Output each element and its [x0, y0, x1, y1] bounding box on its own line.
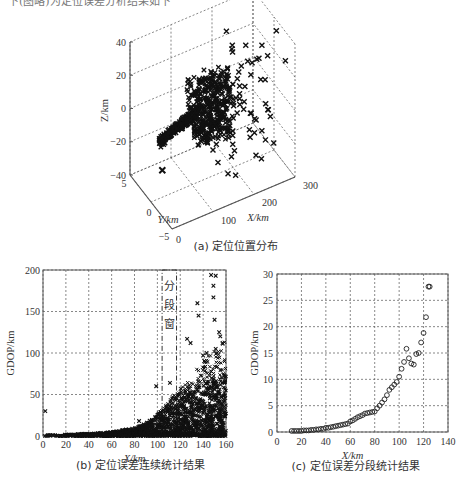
svg-text:5: 5: [268, 400, 273, 411]
svg-text:40: 40: [321, 436, 331, 447]
svg-text:80: 80: [370, 436, 380, 447]
svg-text:80: 80: [130, 439, 140, 450]
caption-a: (a) 定位位置分布: [194, 239, 279, 253]
svg-text:0: 0: [147, 207, 152, 218]
svg-text:−5: −5: [159, 231, 170, 242]
svg-text:0: 0: [176, 234, 181, 245]
svg-text:120: 120: [173, 439, 188, 450]
svg-text:30: 30: [263, 269, 273, 280]
panel-c-segmented-scatter: 020406080100120140051015202530X/kmGDOP/k…: [249, 269, 456, 474]
svg-text:100: 100: [25, 348, 40, 359]
svg-text:60: 60: [345, 436, 355, 447]
svg-text:Z/km: Z/km: [99, 99, 110, 122]
svg-text:200: 200: [262, 197, 277, 208]
svg-text:300: 300: [303, 180, 318, 191]
gdop-continuous-series: [43, 273, 227, 437]
svg-text:20: 20: [296, 436, 306, 447]
svg-text:25: 25: [263, 295, 273, 306]
svg-text:Y/km: Y/km: [158, 214, 179, 225]
svg-text:160: 160: [219, 439, 234, 450]
svg-text:140: 140: [196, 439, 211, 450]
positions-series: [157, 28, 288, 177]
svg-text:段: 段: [164, 298, 175, 312]
caption-b: (b) 定位误差连续统计结果: [76, 458, 205, 472]
panel-b-continuous-scatter: 020406080100120140160050100150200X/kmGDO…: [5, 265, 234, 473]
svg-text:X/km: X/km: [246, 212, 269, 223]
svg-text:60: 60: [107, 439, 117, 450]
svg-text:20: 20: [116, 70, 126, 81]
svg-text:50: 50: [30, 389, 40, 400]
svg-text:10: 10: [263, 374, 273, 385]
svg-text:20: 20: [61, 439, 71, 450]
svg-text:40: 40: [84, 439, 94, 450]
svg-text:0: 0: [121, 103, 126, 114]
caption-c: (c) 定位误差分段统计结果: [291, 459, 419, 473]
figure-canvas: 40200−20−4050−50100200300Z/kmY/kmX/km(a)…: [0, 0, 471, 492]
svg-text:0: 0: [275, 436, 280, 447]
svg-text:15: 15: [263, 348, 273, 359]
panel-a-3d-scatter: 40200−20−4050−50100200300Z/kmY/kmX/km(a)…: [99, 0, 318, 253]
svg-text:150: 150: [25, 306, 40, 317]
svg-text:5: 5: [122, 178, 127, 189]
svg-text:分: 分: [164, 280, 175, 293]
svg-text:−20: −20: [110, 136, 126, 147]
svg-text:0: 0: [41, 439, 46, 450]
svg-text:GDOP/km: GDOP/km: [5, 331, 16, 376]
svg-text:GDOP/km: GDOP/km: [249, 331, 260, 376]
svg-text:0: 0: [35, 431, 40, 442]
svg-text:200: 200: [25, 265, 40, 276]
svg-text:0: 0: [268, 427, 273, 438]
svg-text:140: 140: [441, 436, 456, 447]
gdop-segmented-series: [289, 284, 432, 433]
svg-text:40: 40: [116, 37, 126, 48]
svg-text:100: 100: [150, 439, 165, 450]
svg-text:窗: 窗: [164, 317, 175, 331]
svg-text:100: 100: [221, 215, 236, 226]
svg-text:120: 120: [416, 436, 431, 447]
svg-text:20: 20: [263, 321, 273, 332]
svg-text:100: 100: [392, 436, 407, 447]
